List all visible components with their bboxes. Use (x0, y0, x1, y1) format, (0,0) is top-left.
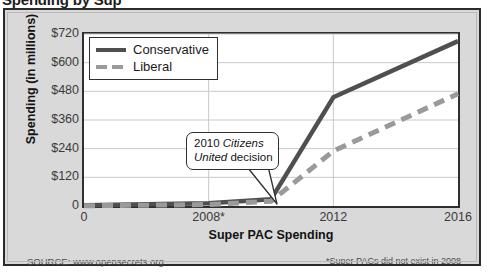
footnote-text: *Super PACs did not exist in 2008 (326, 256, 461, 266)
y-tick-label: $120 (23, 169, 79, 183)
y-tick-label: $480 (23, 83, 79, 97)
chart-legend: Conservative Liberal (89, 37, 218, 80)
legend-label-conservative: Conservative (133, 42, 209, 57)
figure-frame: Spending (in millions) $720$600$480$360$… (3, 8, 481, 266)
y-axis-ticks: $720$600$480$360$240$1200 (17, 32, 79, 208)
legend-swatch-solid-icon (96, 44, 126, 56)
x-tick-label: 2012 (319, 210, 347, 224)
annotation-callout: 2010 Citizens United decision (186, 132, 279, 170)
x-tick-label: 2016 (444, 210, 472, 224)
legend-swatch-dashed-icon (96, 61, 126, 73)
chart-page: Spending by Sup Spending (in millions) $… (0, 0, 489, 276)
y-tick-label: $360 (23, 112, 79, 126)
annotation-line-2: United decision (194, 151, 272, 165)
legend-label-liberal: Liberal (133, 59, 172, 74)
y-tick-label: $240 (23, 141, 79, 155)
page-title: Spending by Sup (2, 0, 122, 8)
x-axis-ticks: 02008*20122016 (82, 210, 460, 230)
legend-item-conservative[interactable]: Conservative (96, 41, 209, 58)
x-axis-title: Super PAC Spending (82, 228, 460, 242)
x-tick-label: 2008* (192, 210, 225, 224)
legend-item-liberal[interactable]: Liberal (96, 58, 209, 75)
y-tick-label: $720 (23, 26, 79, 40)
source-note: SOURCE: www.opensecrets.org (27, 256, 164, 267)
y-tick-label: $600 (23, 55, 79, 69)
x-tick-label: 0 (81, 210, 88, 224)
annotation-decision-word: decision (227, 151, 272, 163)
y-tick-label: 0 (23, 198, 79, 212)
annotation-case-name-part2: United (194, 151, 227, 163)
annotation-year: 2010 (194, 137, 223, 149)
annotation-line-1: 2010 Citizens (194, 137, 272, 151)
annotation-case-name-part1: Citizens (223, 137, 264, 149)
